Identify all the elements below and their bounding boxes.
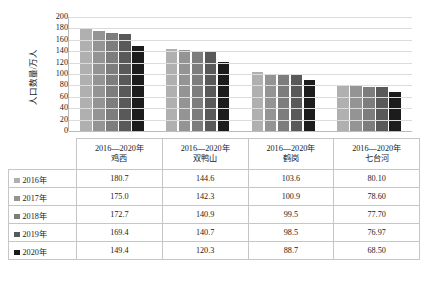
y-tick-label: 200 (56, 13, 68, 21)
gridline (69, 108, 412, 109)
legend-label: 2016年 (23, 176, 47, 185)
legend-label: 2018年 (23, 212, 47, 221)
column-header-city: 鸡西 (77, 154, 162, 165)
gridline (69, 51, 412, 52)
y-tick-label: 140 (56, 47, 68, 55)
gridline (69, 63, 412, 64)
legend-swatch-icon (14, 196, 20, 202)
gridline (69, 97, 412, 98)
chart-page: 人口数量/万人 200180160140120100806040200 2016… (0, 0, 429, 282)
table-cell: 149.4 (77, 242, 163, 260)
table-cell: 103.6 (248, 170, 334, 188)
table-row: 2019年169.4140.798.576.97 (9, 224, 420, 242)
column-header-city: 七台河 (334, 154, 419, 165)
data-table: 2016—2020年鸡西2016—2020年双鸭山2016—2020年鹤岗201… (8, 138, 420, 260)
gridline (69, 17, 412, 18)
table-cell: 99.5 (248, 206, 334, 224)
legend-swatch-icon (14, 250, 20, 256)
y-tick-label: 20 (60, 116, 68, 124)
table-cell: 100.9 (248, 188, 334, 206)
table-cell: 76.97 (334, 224, 420, 242)
bar (106, 33, 118, 131)
y-tick-label: 120 (56, 59, 68, 67)
table-row: 2017年175.0142.3100.978.60 (9, 188, 420, 206)
table-cell: 169.4 (77, 224, 163, 242)
table-cell: 140.9 (162, 206, 248, 224)
bar (291, 75, 303, 131)
gridline (69, 120, 412, 121)
bar (93, 31, 105, 131)
gridline (69, 85, 412, 86)
column-header: 2016—2020年七台河 (334, 139, 420, 170)
legend-swatch-icon (14, 232, 20, 238)
table-cell: 98.5 (248, 224, 334, 242)
table-cell: 172.7 (77, 206, 163, 224)
legend-entry[interactable]: 2018年 (9, 206, 77, 224)
column-header-city: 鹤岗 (249, 154, 334, 165)
table-cell: 144.6 (162, 170, 248, 188)
y-tick-label: 160 (56, 36, 68, 44)
bar (119, 34, 131, 131)
table-cell: 68.50 (334, 242, 420, 260)
table-corner-cell (9, 139, 77, 170)
y-tick-label: 60 (60, 93, 68, 101)
table-cell: 80.10 (334, 170, 420, 188)
legend-label: 2020年 (23, 248, 47, 257)
y-tick-label: 40 (60, 104, 68, 112)
axis-baseline (69, 131, 412, 132)
legend-label: 2017年 (23, 194, 47, 203)
bar-chart: 人口数量/万人 200180160140120100806040200 (0, 0, 429, 140)
bar (304, 80, 316, 131)
column-header-range: 2016—2020年 (163, 144, 248, 155)
table-header-row: 2016—2020年鸡西2016—2020年双鸭山2016—2020年鹤岗201… (9, 139, 420, 170)
table-cell: 175.0 (77, 188, 163, 206)
gridline (69, 28, 412, 29)
table-cell: 78.60 (334, 188, 420, 206)
table-cell: 180.7 (77, 170, 163, 188)
bar (265, 74, 277, 132)
column-header-range: 2016—2020年 (249, 144, 334, 155)
legend-entry[interactable]: 2017年 (9, 188, 77, 206)
y-tick-label: 80 (60, 81, 68, 89)
table-cell: 140.7 (162, 224, 248, 242)
legend-label: 2019年 (23, 230, 47, 239)
gridline (69, 74, 412, 75)
column-header-city: 双鸭山 (163, 154, 248, 165)
column-header-range: 2016—2020年 (77, 144, 162, 155)
y-axis-title: 人口数量/万人 (26, 32, 40, 122)
table-cell: 77.70 (334, 206, 420, 224)
legend-entry[interactable]: 2020年 (9, 242, 77, 260)
y-tick-label: 180 (56, 24, 68, 32)
table-row: 2016年180.7144.6103.680.10 (9, 170, 420, 188)
legend-swatch-icon (14, 214, 20, 220)
table-cell: 142.3 (162, 188, 248, 206)
table-cell: 88.7 (248, 242, 334, 260)
column-header: 2016—2020年双鸭山 (162, 139, 248, 170)
bar (278, 74, 290, 131)
legend-entry[interactable]: 2019年 (9, 224, 77, 242)
y-tick-label: 100 (56, 70, 68, 78)
table-cell: 120.3 (162, 242, 248, 260)
gridline (69, 40, 412, 41)
column-header-range: 2016—2020年 (334, 144, 419, 155)
bar (132, 46, 144, 131)
column-header: 2016—2020年鸡西 (77, 139, 163, 170)
legend-swatch-icon (14, 178, 20, 184)
table-row: 2018年172.7140.999.577.70 (9, 206, 420, 224)
bar (80, 28, 92, 131)
bar (389, 92, 401, 131)
column-header: 2016—2020年鹤岗 (248, 139, 334, 170)
legend-entry[interactable]: 2016年 (9, 170, 77, 188)
table-body: 2016—2020年鸡西2016—2020年双鸭山2016—2020年鹤岗201… (9, 139, 420, 260)
bar (252, 72, 264, 131)
y-axis-ticks: 200180160140120100806040200 (42, 14, 68, 134)
table-row: 2020年149.4120.388.768.50 (9, 242, 420, 260)
plot-area (68, 17, 412, 131)
